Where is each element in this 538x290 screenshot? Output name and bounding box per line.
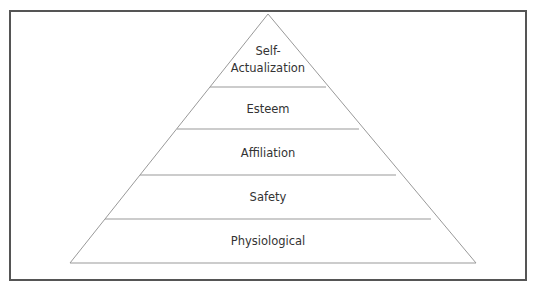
level-self-actualization-line1: Self-: [255, 44, 280, 58]
level-physiological: Physiological: [231, 234, 306, 248]
level-self-actualization-line2: Actualization: [231, 61, 305, 75]
level-esteem: Esteem: [246, 102, 289, 116]
pyramid-diagram: Self- Actualization Esteem Affiliation S…: [0, 0, 538, 290]
level-safety: Safety: [250, 190, 287, 204]
level-affiliation: Affiliation: [241, 146, 295, 160]
